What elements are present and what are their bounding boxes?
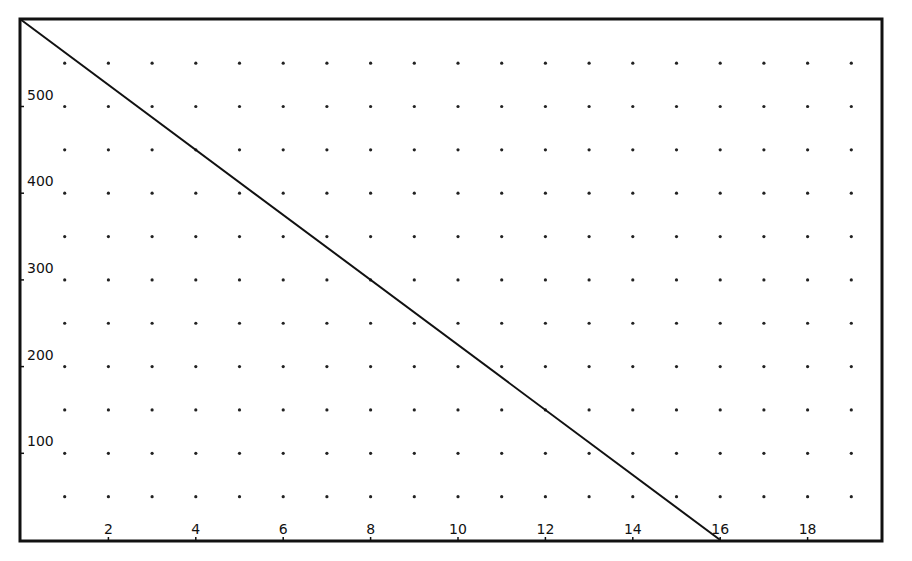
grid-dot: [500, 148, 503, 151]
grid-dot: [194, 452, 197, 455]
grid-dot: [282, 62, 285, 65]
grid-dot: [500, 365, 503, 368]
grid-dot: [369, 365, 372, 368]
grid-dot: [369, 408, 372, 411]
x-tick-label: 8: [366, 521, 375, 537]
grid-dot: [631, 105, 634, 108]
grid-dot: [544, 62, 547, 65]
grid-dot: [588, 105, 591, 108]
grid-dot: [456, 105, 459, 108]
grid-dot: [151, 322, 154, 325]
grid-dot: [151, 148, 154, 151]
grid-dot: [850, 322, 853, 325]
grid-dot: [107, 278, 110, 281]
grid-dot: [631, 148, 634, 151]
grid-dot: [544, 322, 547, 325]
grid-dot: [631, 408, 634, 411]
grid-dot: [63, 322, 66, 325]
grid-dot: [282, 365, 285, 368]
grid-dot: [325, 365, 328, 368]
grid-dot: [238, 192, 241, 195]
grid-dot: [806, 192, 809, 195]
grid-dot: [456, 408, 459, 411]
grid-dot: [850, 235, 853, 238]
y-tick-label: 200: [27, 347, 54, 363]
grid-dot: [544, 365, 547, 368]
grid-dot: [456, 278, 459, 281]
grid-dot: [850, 62, 853, 65]
grid-dot: [719, 278, 722, 281]
x-tick-label: 12: [536, 521, 554, 537]
plot-frame: [20, 19, 882, 541]
grid-dot: [238, 365, 241, 368]
grid-dot: [151, 365, 154, 368]
grid-dot: [151, 105, 154, 108]
grid-dot: [719, 408, 722, 411]
grid-dot: [588, 148, 591, 151]
grid-dot: [194, 105, 197, 108]
grid-dot: [500, 192, 503, 195]
grid-dot: [369, 148, 372, 151]
grid-dot: [238, 495, 241, 498]
grid-dot: [588, 452, 591, 455]
y-tick-label: 500: [27, 87, 54, 103]
grid-dot: [325, 62, 328, 65]
grid-dot: [762, 62, 765, 65]
grid-dot: [719, 495, 722, 498]
grid-dot: [63, 62, 66, 65]
grid-dot: [369, 452, 372, 455]
grid-dot: [282, 148, 285, 151]
grid-dot: [151, 452, 154, 455]
grid-dot: [413, 192, 416, 195]
grid-dot: [369, 495, 372, 498]
x-tick-label: 2: [104, 521, 113, 537]
grid-dot: [63, 408, 66, 411]
grid-dot: [325, 408, 328, 411]
grid-dot: [107, 495, 110, 498]
grid-dot: [456, 62, 459, 65]
grid-dot: [456, 365, 459, 368]
grid-dot: [806, 148, 809, 151]
grid-dot: [762, 278, 765, 281]
grid-dot: [500, 105, 503, 108]
grid-dot: [413, 278, 416, 281]
grid-dot: [762, 408, 765, 411]
grid-dot: [675, 105, 678, 108]
grid-dot: [850, 148, 853, 151]
grid-dot: [806, 62, 809, 65]
grid-dot: [500, 408, 503, 411]
grid-dot: [806, 408, 809, 411]
grid-dot: [500, 322, 503, 325]
grid-dot: [588, 495, 591, 498]
grid-dot: [850, 495, 853, 498]
grid-dot: [675, 408, 678, 411]
grid-dot: [719, 322, 722, 325]
grid-dot: [588, 322, 591, 325]
grid-dot: [107, 192, 110, 195]
grid-dot: [456, 322, 459, 325]
grid-dot: [238, 278, 241, 281]
grid-dot: [63, 105, 66, 108]
grid-dot: [762, 105, 765, 108]
grid-dot: [850, 278, 853, 281]
grid-dot: [282, 495, 285, 498]
grid-dot: [151, 408, 154, 411]
grid-dot: [413, 452, 416, 455]
grid-dot: [325, 105, 328, 108]
grid-dot: [544, 495, 547, 498]
grid-dot: [675, 235, 678, 238]
grid-dot: [194, 495, 197, 498]
grid-dot: [806, 278, 809, 281]
grid-dot: [719, 62, 722, 65]
grid-dot: [151, 235, 154, 238]
grid-dot: [588, 235, 591, 238]
grid-dot: [369, 235, 372, 238]
y-tick-label: 100: [27, 433, 54, 449]
grid-dot: [500, 495, 503, 498]
grid-dot: [631, 495, 634, 498]
grid-dot: [369, 62, 372, 65]
grid-dot: [675, 452, 678, 455]
grid-dot: [282, 452, 285, 455]
grid-dot: [238, 408, 241, 411]
grid-dot: [675, 495, 678, 498]
